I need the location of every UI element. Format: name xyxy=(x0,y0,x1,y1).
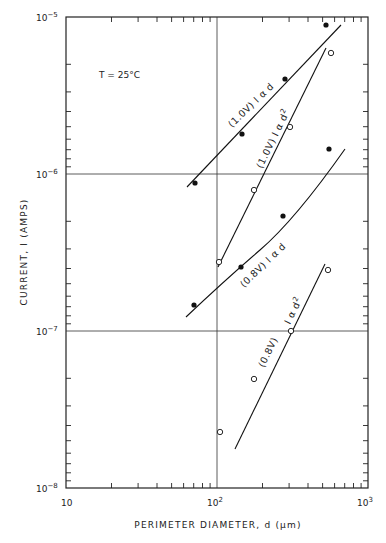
label-08v-d2-relation: I α d2 xyxy=(281,295,304,326)
data-point xyxy=(325,267,330,272)
series-08v-d-points xyxy=(191,146,331,307)
x-tick-labels: 10 102 103 xyxy=(61,496,373,508)
x-minor-ticks xyxy=(112,17,362,488)
data-point xyxy=(287,124,292,129)
data-point xyxy=(326,146,331,151)
data-point xyxy=(288,328,293,333)
grid-lines xyxy=(66,17,368,488)
data-point xyxy=(191,302,196,307)
fit-line-08v-d2 xyxy=(235,264,325,449)
data-point xyxy=(216,259,221,264)
y-tick-labels: 10−5 10−6 10−7 10−8 xyxy=(36,11,58,494)
data-point xyxy=(251,187,256,192)
temperature-annotation: T = 25°C xyxy=(98,70,140,80)
data-point xyxy=(328,50,333,55)
x-tick-1000: 103 xyxy=(357,496,373,508)
data-point xyxy=(217,429,222,434)
y-tick-1e-8: 10−8 xyxy=(36,482,58,494)
data-point xyxy=(282,76,287,81)
x-axis-title: PERIMETER DIAMETER, d (µm) xyxy=(134,520,301,530)
data-point xyxy=(251,376,256,381)
fit-line-1v-d2 xyxy=(218,48,326,267)
data-point xyxy=(239,131,244,136)
series-1v-d2-points xyxy=(251,50,333,192)
y-axis-title: CURRENT, I (AMPS) xyxy=(19,198,29,305)
log-log-chart: 10−5 10−6 10−7 10−8 10 102 103 PERIMETER… xyxy=(0,0,386,543)
label-1v-d2: (1.0V) I α d2 xyxy=(253,107,292,170)
label-1v-d: (1.0V) I α d xyxy=(226,80,276,129)
y-tick-1e-5: 10−5 xyxy=(36,11,58,23)
x-tick-100: 102 xyxy=(207,496,223,508)
x-tick-10: 10 xyxy=(61,498,73,508)
data-point xyxy=(192,180,197,185)
data-point xyxy=(280,213,285,218)
y-tick-1e-6: 10−6 xyxy=(36,168,58,180)
data-point xyxy=(323,22,328,27)
y-tick-1e-7: 10−7 xyxy=(36,325,58,337)
data-point xyxy=(238,264,243,269)
